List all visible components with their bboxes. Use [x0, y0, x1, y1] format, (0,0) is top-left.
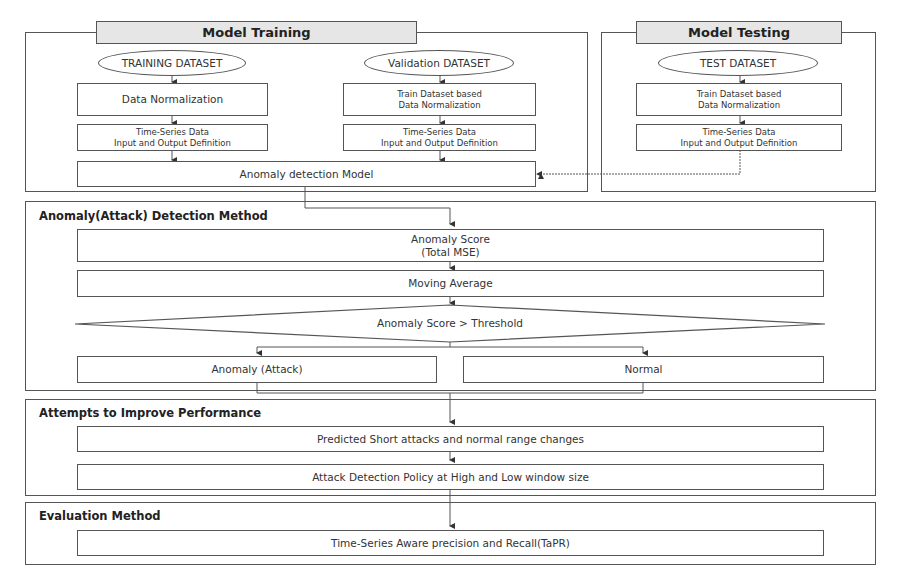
val-timeseries-box: Time-Series Data Input and Output Defini… — [343, 124, 536, 151]
train-timeseries-box: Time-Series Data Input and Output Defini… — [77, 124, 268, 151]
test-timeseries-box: Time-Series Data Input and Output Defini… — [636, 124, 842, 151]
test-norm-line2: Data Normalization — [698, 100, 780, 111]
validation-dataset-node: Validation DATASET — [364, 50, 514, 76]
train-normalization-box: Data Normalization — [77, 83, 268, 116]
model-training-title: Model Training — [96, 21, 417, 44]
val-normalization-box: Train Dataset based Data Normalization — [343, 83, 536, 116]
detection-method-title: Anomaly(Attack) Detection Method — [39, 209, 268, 223]
training-dataset-node: TRAINING DATASET — [98, 50, 246, 76]
model-testing-title: Model Testing — [636, 21, 842, 44]
anomaly-detection-model-box: Anomaly detection Model — [77, 161, 536, 187]
short-attacks-box: Predicted Short attacks and normal range… — [77, 426, 824, 452]
train-ts-line2: Input and Output Definition — [114, 138, 231, 149]
window-policy-box: Attack Detection Policy at High and Low … — [77, 464, 824, 490]
anomaly-attack-box: Anomaly (Attack) — [77, 356, 437, 383]
val-ts-line1: Time-Series Data — [403, 127, 476, 138]
test-ts-line2: Input and Output Definition — [681, 138, 798, 149]
normal-box: Normal — [463, 356, 824, 383]
evaluation-method-title: Evaluation Method — [39, 509, 161, 523]
val-ts-line2: Input and Output Definition — [381, 138, 498, 149]
val-norm-line1: Train Dataset based — [397, 89, 482, 100]
test-normalization-box: Train Dataset based Data Normalization — [636, 83, 842, 116]
test-dataset-node: TEST DATASET — [658, 50, 818, 76]
tapr-box: Time-Series Aware precision and Recall(T… — [77, 530, 824, 556]
decision-label: Anomaly Score > Threshold — [300, 317, 600, 329]
anomaly-score-line1: Anomaly Score — [411, 233, 490, 246]
moving-average-box: Moving Average — [77, 270, 824, 297]
train-ts-line1: Time-Series Data — [136, 127, 209, 138]
anomaly-score-line2: (Total MSE) — [421, 246, 479, 259]
test-ts-line1: Time-Series Data — [702, 127, 775, 138]
val-norm-line2: Data Normalization — [398, 100, 480, 111]
anomaly-score-box: Anomaly Score (Total MSE) — [77, 229, 824, 262]
test-norm-line1: Train Dataset based — [697, 89, 782, 100]
improve-performance-title: Attempts to Improve Performance — [39, 406, 261, 420]
